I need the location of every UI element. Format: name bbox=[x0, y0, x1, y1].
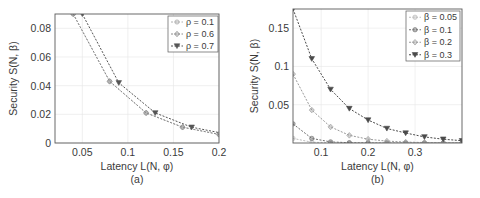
figure: 0.050.10.150.200.020.040.060.08ρ = 0.1ρ … bbox=[0, 0, 480, 198]
chart-panel-b: 0.10.20.30.050.10.15β = 0.05β = 0.1β = 0… bbox=[248, 7, 465, 185]
y-axis-label: Security S(N, β) bbox=[248, 39, 260, 113]
legend-entry: β = 0.2 bbox=[424, 37, 452, 47]
legend-entry: ρ = 0.1 bbox=[186, 17, 214, 27]
panel-label: (b) bbox=[371, 173, 384, 185]
y-tick-label: 0.1 bbox=[274, 60, 289, 72]
legend-entry: ρ = 0.6 bbox=[186, 29, 214, 39]
y-tick-label: 0.02 bbox=[31, 108, 52, 120]
chart-panel-a: 0.050.10.150.200.020.040.060.08ρ = 0.1ρ … bbox=[7, 11, 231, 185]
x-axis-label: Latency L(N, φ) bbox=[101, 160, 174, 172]
y-tick-label: 0.05 bbox=[269, 99, 290, 111]
y-tick-label: 0.15 bbox=[269, 22, 290, 34]
y-tick-label: 0 bbox=[45, 137, 51, 149]
legend-entry: β = 0.3 bbox=[424, 50, 452, 60]
x-axis-label: Latency L(N, φ) bbox=[341, 160, 414, 172]
legend: ρ = 0.1ρ = 0.6ρ = 0.7 bbox=[168, 16, 218, 52]
legend-entry: β = 0.05 bbox=[424, 12, 457, 22]
y-tick-label: 0.06 bbox=[31, 51, 52, 63]
legend: β = 0.05β = 0.1β = 0.2β = 0.3 bbox=[406, 11, 460, 61]
x-tick-label: 0.15 bbox=[163, 146, 184, 158]
x-tick-label: 0.2 bbox=[361, 146, 376, 158]
data-point-marker bbox=[225, 132, 231, 137]
data-point-marker bbox=[310, 136, 314, 140]
x-tick-label: 0.1 bbox=[314, 146, 329, 158]
y-tick-label: 0.04 bbox=[31, 80, 52, 92]
x-tick-label: 0.1 bbox=[121, 146, 136, 158]
legend-marker bbox=[413, 15, 417, 19]
y-axis-label: Security S(N, β) bbox=[7, 41, 19, 115]
y-tick-label: 0.08 bbox=[31, 22, 52, 34]
legend-marker bbox=[413, 28, 417, 32]
x-tick-label: 0.2 bbox=[212, 146, 227, 158]
legend-marker bbox=[175, 20, 179, 24]
x-tick-label: 0.3 bbox=[408, 146, 423, 158]
legend-entry: β = 0.1 bbox=[424, 25, 452, 35]
x-tick-label: 0.05 bbox=[72, 146, 93, 158]
legend-entry: ρ = 0.7 bbox=[186, 41, 214, 51]
panel-label: (a) bbox=[131, 173, 144, 185]
